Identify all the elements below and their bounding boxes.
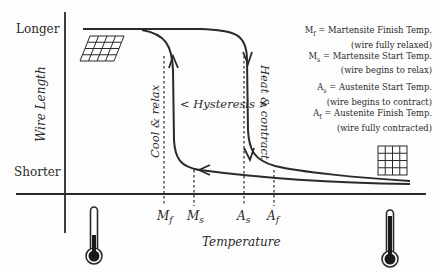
tick-as: As <box>237 209 250 225</box>
legend-item-as: As = Austenite Start Temp. <box>292 82 432 97</box>
thermometer-high-icon <box>382 210 398 267</box>
legend-item-mf: Mf = Martensite Finish Temp. <box>292 25 432 40</box>
square-grid-icon <box>378 146 407 175</box>
legend: Mf = Martensite Finish Temp. (wire fully… <box>292 25 432 134</box>
y-axis-title: Wire Length <box>34 66 48 142</box>
legend-note-af: (wire fully contracted) <box>292 123 432 134</box>
tick-mf: Mf <box>157 209 173 225</box>
tick-ms: Ms <box>187 209 204 225</box>
hysteresis-annotation: < Hysteresis > <box>180 97 268 111</box>
legend-item-af: Af = Austenite Finish Temp. <box>292 108 432 123</box>
legend-note-mf: (wire fully relaxed) <box>292 40 432 51</box>
cooling-annotation: Cool & relax <box>148 85 162 158</box>
skewed-grid-icon <box>80 36 124 61</box>
tick-af: Af <box>267 209 279 225</box>
y-axis-top-label: Longer <box>16 22 59 36</box>
x-axis-title: Temperature <box>202 235 281 249</box>
heating-annotation: Heat & contract <box>258 65 272 160</box>
legend-note-ms: (wire begins to relax) <box>292 65 432 76</box>
heating-arrow-lower <box>244 148 254 160</box>
legend-item-ms: Ms = Martensite Start Temp. <box>292 51 432 66</box>
legend-note-as: (wire begins to contract) <box>292 97 432 108</box>
thermometer-low-icon <box>86 207 102 264</box>
y-axis-bottom-label: Shorter <box>14 165 61 179</box>
